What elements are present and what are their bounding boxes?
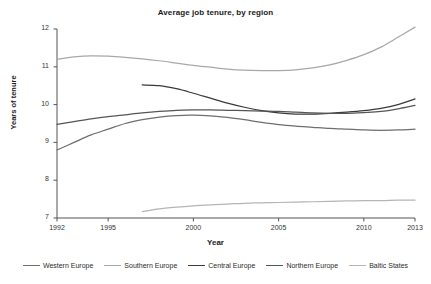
legend-item-label: Baltic States [369,262,408,269]
legend-item-label: Western Europe [43,262,93,269]
y-tick-label: 12 [29,24,49,31]
series-line [142,200,415,211]
y-tick-label: 10 [29,100,49,107]
y-tick-label: 8 [29,175,49,182]
axis-ticks [54,29,416,222]
y-tick-label: 7 [29,213,49,220]
legend-item[interactable]: Western Europe [23,262,93,269]
x-tick-label: 1995 [93,224,123,231]
chart-legend: Western EuropeSouthern EuropeCentral Eur… [0,262,431,269]
data-series-group [57,27,415,211]
plot-area [0,0,431,284]
legend-item-label: Central Europe [208,262,255,269]
legend-item-label: Southern Europe [124,262,177,269]
series-line [57,105,415,124]
series-line [57,27,415,71]
legend-item[interactable]: Northern Europe [266,262,338,269]
legend-line-icon [266,265,283,266]
axis-lines [57,29,415,218]
x-tick-label: 1992 [42,224,72,231]
legend-line-icon [349,265,366,266]
legend-item[interactable]: Southern Europe [104,262,177,269]
x-tick-label: 2000 [178,224,208,231]
x-tick-label: 2005 [264,224,294,231]
series-line [57,115,415,150]
legend-line-icon [188,265,205,266]
chart-figure: Average job tenure, by region Years of t… [0,0,431,284]
legend-item[interactable]: Central Europe [188,262,255,269]
x-tick-label: 2013 [400,224,430,231]
legend-item-label: Northern Europe [286,262,338,269]
legend-line-icon [23,265,40,266]
y-tick-label: 11 [29,62,49,69]
x-tick-label: 2010 [349,224,379,231]
legend-line-icon [104,265,121,266]
y-tick-label: 9 [29,137,49,144]
legend-item[interactable]: Baltic States [349,262,408,269]
